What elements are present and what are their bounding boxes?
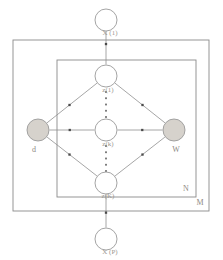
ellipsis-dot — [105, 164, 107, 166]
ellipsis-dot — [105, 151, 107, 153]
arrowhead-W-to-z_1 — [141, 104, 143, 106]
node-label-d: d — [32, 145, 36, 154]
plate-diagram-canvas: X (1)z(1)z(k)z(K)dWX (P)MN — [0, 0, 223, 260]
edge-d-to-z_1 — [47, 83, 97, 123]
node-label-W: W — [172, 145, 180, 154]
arrowhead-d-to-z_k — [69, 129, 71, 131]
arrowhead-W-to-z_k — [141, 129, 143, 131]
node-z_1[interactable] — [95, 65, 117, 87]
node-label-z_1: z(1) — [102, 86, 114, 94]
graphical-model-svg: X (1)z(1)z(k)z(K)dWX (P)MN — [0, 0, 223, 260]
ellipsis-dot — [105, 116, 107, 118]
ellipsis-dot — [105, 104, 107, 106]
edge-W-to-z_1 — [115, 83, 165, 123]
ellipsis-dot — [105, 110, 107, 112]
node-W[interactable] — [163, 119, 185, 141]
plate-label-inner: N — [183, 184, 189, 193]
node-z_k[interactable] — [95, 119, 117, 141]
arrowhead-z_1-to-x_top — [105, 43, 107, 45]
arrowhead-W-to-z_K — [141, 153, 143, 155]
ellipsis-dot — [105, 158, 107, 160]
plate-label-outer: M — [196, 198, 203, 207]
node-label-z_K: z(K) — [102, 192, 115, 200]
ellipsis-dot — [105, 97, 107, 99]
arrowhead-d-to-z_1 — [68, 104, 70, 106]
node-label-z_k: z(k) — [102, 140, 114, 148]
labels-layer: X (1)z(1)z(k)z(K)dWX (P)MN — [32, 29, 204, 256]
arrowhead-d-to-z_K — [68, 153, 70, 155]
edge-d-to-z_K — [47, 137, 97, 176]
node-d[interactable] — [27, 119, 49, 141]
edge-W-to-z_K — [115, 137, 165, 176]
node-label-x_top: X (1) — [103, 29, 119, 37]
arrowhead-z_K-to-x_bottom — [105, 212, 107, 214]
node-label-x_bottom: X (P) — [102, 248, 118, 256]
